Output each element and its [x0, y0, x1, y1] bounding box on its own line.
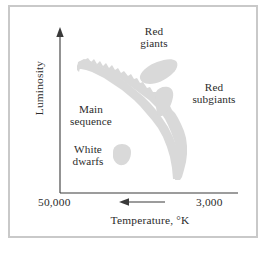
- x-axis-tick-right: 3,000: [196, 196, 223, 208]
- x-axis-tick-left: 50,000: [38, 196, 71, 208]
- x-axis-title: Temperature, °K: [60, 214, 240, 226]
- y-axis-title: Luminosity: [33, 46, 45, 130]
- region-label-red-giants: Red giants: [122, 26, 186, 49]
- region-label-main-sequence: Main sequence: [55, 104, 127, 127]
- red-giants-blob: [140, 59, 178, 84]
- region-label-white-dwarfs: White dwarfs: [58, 144, 118, 167]
- hr-diagram-figure: Red giants Red subgiants Main sequence W…: [0, 0, 268, 257]
- temperature-direction-arrow: [119, 198, 165, 205]
- region-label-red-subgiants: Red subgiants: [178, 82, 250, 105]
